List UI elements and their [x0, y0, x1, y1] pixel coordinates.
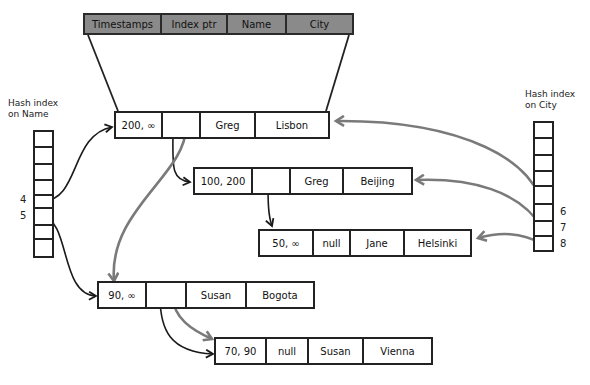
hash-name-slot-5-label: 5	[20, 210, 26, 221]
cell-name: Susan	[187, 283, 247, 307]
record-susan-vienna: 70, 90 null Susan Vienna	[214, 337, 433, 365]
cell-name: Susan	[309, 339, 364, 363]
cell-index-ptr: null	[314, 231, 351, 255]
hash-name-title-line1: Hash index	[8, 98, 58, 109]
hash-name-title-line2: on Name	[8, 109, 58, 120]
arrow-lisbon-to-bogota	[114, 127, 186, 281]
hash-name-title: Hash index on Name	[8, 98, 58, 120]
cell-city: Bogota	[247, 283, 313, 307]
cell-timestamps: 50, ∞	[260, 231, 314, 255]
hash-city-title-line1: Hash index	[525, 89, 575, 100]
hash-index-name	[33, 130, 54, 258]
header-city: City	[287, 15, 352, 33]
diagram-canvas: Timestamps Index ptr Name City Hash inde…	[0, 0, 590, 385]
header-index-ptr: Index ptr	[162, 15, 228, 33]
hash-index-city	[533, 121, 554, 252]
arrow-city-7-to-beijing	[416, 180, 543, 229]
hash-city-title: Hash index on City	[525, 89, 575, 111]
cell-name: Greg	[201, 113, 256, 137]
hash-city-slot-6-label: 6	[560, 206, 566, 217]
record-jane-helsinki: 50, ∞ null Jane Helsinki	[258, 229, 472, 257]
hash-city-slot-7-label: 7	[560, 222, 566, 233]
cell-timestamps: 90, ∞	[99, 283, 147, 307]
cell-city: Beijing	[344, 169, 411, 193]
cell-index-ptr	[147, 283, 187, 307]
record-greg-lisbon: 200, ∞ Greg Lisbon	[114, 111, 330, 139]
hash-name-slot-4-label: 4	[20, 194, 26, 205]
cell-city: Lisbon	[256, 113, 328, 137]
cell-city: Helsinki	[405, 231, 470, 255]
cell-name: Jane	[351, 231, 405, 255]
cell-index-ptr	[253, 169, 291, 193]
header-name: Name	[228, 15, 287, 33]
record-susan-bogota: 90, ∞ Susan Bogota	[97, 281, 315, 309]
header-timestamps: Timestamps	[85, 15, 162, 33]
hash-city-slot-8-label: 8	[560, 238, 566, 249]
cell-timestamps: 100, 200	[195, 169, 253, 193]
hash-city-title-line2: on City	[525, 100, 575, 111]
cell-city: Vienna	[364, 339, 431, 363]
table-header: Timestamps Index ptr Name City	[83, 13, 354, 35]
cell-timestamps: 200, ∞	[116, 113, 163, 137]
cell-name: Greg	[291, 169, 344, 193]
cell-index-ptr: null	[267, 339, 309, 363]
cell-timestamps: 70, 90	[216, 339, 267, 363]
header-left-edge	[88, 35, 118, 111]
header-right-edge	[326, 35, 349, 111]
cell-index-ptr	[163, 113, 201, 137]
record-greg-beijing: 100, 200 Greg Beijing	[193, 167, 413, 195]
